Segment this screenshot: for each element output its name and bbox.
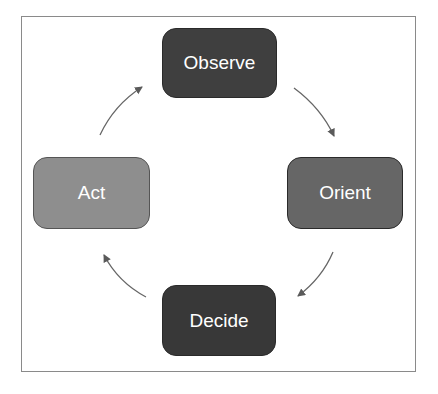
- node-observe: Observe: [162, 28, 277, 98]
- node-decide-label: Decide: [189, 310, 248, 332]
- node-decide: Decide: [162, 285, 276, 356]
- node-act-label: Act: [78, 182, 105, 204]
- node-act: Act: [33, 157, 150, 229]
- node-observe-label: Observe: [184, 52, 256, 74]
- node-orient: Orient: [287, 157, 403, 229]
- node-orient-label: Orient: [319, 182, 371, 204]
